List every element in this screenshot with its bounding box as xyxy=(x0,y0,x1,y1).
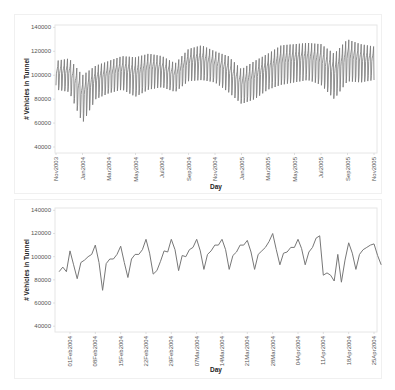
y-tick-label: 120000 xyxy=(31,230,52,236)
x-tick-label: Mar2005 xyxy=(265,156,271,180)
y-tick-label: 140000 xyxy=(31,24,52,30)
x-tick-label: 22Feb2004 xyxy=(143,335,149,366)
x-tick-label: 21Mar2004 xyxy=(244,335,250,366)
x-tick-label: Nov2003 xyxy=(53,156,59,181)
traffic-series-line xyxy=(56,40,374,122)
line-chart-feb-apr-2004: 400006000080000100000120000140000# Vehic… xyxy=(15,200,383,380)
x-tick-label: Nov2004 xyxy=(212,156,218,181)
x-axis-title: Day xyxy=(210,183,222,191)
x-tick-label: Jul2005 xyxy=(318,156,324,178)
y-tick-label: 40000 xyxy=(34,144,51,150)
chart-panel-full-range: 400006000080000100000120000140000# Vehic… xyxy=(14,14,382,194)
x-tick-label: Jan2004 xyxy=(80,156,86,180)
y-tick-label: 120000 xyxy=(31,48,52,54)
plot-area-frame xyxy=(55,208,377,332)
y-tick-label: 60000 xyxy=(34,120,51,126)
x-tick-label: 01Feb2004 xyxy=(67,335,73,366)
plot-area-frame xyxy=(55,25,377,153)
y-tick-label: 40000 xyxy=(34,323,51,329)
x-tick-label: Mar2004 xyxy=(106,156,112,180)
x-tick-label: 29Feb2004 xyxy=(168,335,174,366)
x-tick-label: 11Apr2004 xyxy=(320,335,326,365)
y-axis-title: # Vehicles in Tunnel xyxy=(23,58,30,120)
x-tick-label: Sep2004 xyxy=(186,156,192,181)
y-tick-label: 100000 xyxy=(31,254,52,260)
y-tick-label: 80000 xyxy=(34,277,51,283)
y-axis-title: # Vehicles in Tunnel xyxy=(23,239,30,301)
x-tick-label: May2004 xyxy=(133,156,139,181)
x-tick-label: Nov2005 xyxy=(371,156,377,181)
traffic-series-line xyxy=(59,234,381,291)
x-axis-title: Day xyxy=(210,366,222,374)
y-tick-label: 80000 xyxy=(34,96,51,102)
x-tick-label: Jan2005 xyxy=(239,156,245,180)
x-tick-label: Sep2005 xyxy=(345,156,351,181)
y-tick-label: 140000 xyxy=(31,207,52,213)
x-tick-label: 18Apr2004 xyxy=(346,335,352,365)
line-chart-full-range: 400006000080000100000120000140000# Vehic… xyxy=(15,15,383,195)
x-tick-label: 25Apr2004 xyxy=(371,335,377,365)
y-tick-label: 100000 xyxy=(31,72,52,78)
x-tick-label: 04Apr2004 xyxy=(295,335,301,365)
x-tick-label: 15Feb2004 xyxy=(118,335,124,366)
x-tick-label: 07Mar2004 xyxy=(194,335,200,366)
x-tick-label: May2005 xyxy=(292,156,298,181)
x-tick-label: 08Feb2004 xyxy=(92,335,98,366)
x-tick-label: Jul2004 xyxy=(159,156,165,178)
chart-panel-zoomed: 400006000080000100000120000140000# Vehic… xyxy=(14,199,382,379)
x-tick-label: 14Mar2004 xyxy=(219,335,225,366)
y-tick-label: 60000 xyxy=(34,300,51,306)
x-tick-label: 28Mar2004 xyxy=(270,335,276,366)
